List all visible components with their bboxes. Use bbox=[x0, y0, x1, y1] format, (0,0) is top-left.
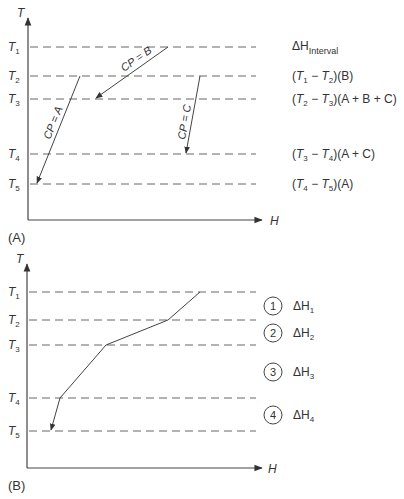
x-axis-label: H bbox=[268, 462, 277, 476]
svg-text:ΔH1: ΔH1 bbox=[293, 299, 315, 315]
interval-1-2: (T1 − T2)(B) bbox=[292, 69, 353, 85]
stream-a: CP = A bbox=[37, 76, 80, 183]
panel-a: T H (A) T1 T2 T3 T4 T5 CP = B CP = A bbox=[8, 6, 397, 245]
interval-1: 1 ΔH1 bbox=[264, 297, 315, 315]
svg-text:T5: T5 bbox=[8, 424, 20, 440]
svg-text:ΔH2: ΔH2 bbox=[293, 326, 315, 342]
svg-text:T2: T2 bbox=[8, 69, 20, 85]
temperature-levels bbox=[29, 292, 256, 431]
svg-text:1: 1 bbox=[270, 300, 276, 312]
interval-3-4: (T3 − T4)(A + C) bbox=[292, 147, 375, 163]
interval-header: ΔHInterval bbox=[292, 39, 338, 56]
interval-4: 4 ΔH4 bbox=[264, 406, 315, 424]
interval-4-5: (T4 − T5)(A) bbox=[292, 177, 353, 193]
composite-curve bbox=[51, 292, 200, 430]
interval-2: 2 ΔH2 bbox=[264, 324, 315, 342]
y-axis-label: T bbox=[16, 252, 25, 266]
y-axis-label: T bbox=[17, 6, 26, 20]
stream-c: CP = C bbox=[175, 76, 200, 153]
temperature-interval-diagram: T H (A) T1 T2 T3 T4 T5 CP = B CP = A bbox=[0, 0, 404, 499]
level-labels: T1 T2 T3 T4 T5 bbox=[8, 40, 20, 193]
svg-text:CP = C: CP = C bbox=[175, 103, 193, 140]
svg-text:3: 3 bbox=[270, 366, 276, 378]
svg-text:4: 4 bbox=[270, 409, 276, 421]
panel-caption: (A) bbox=[8, 230, 25, 245]
svg-text:T4: T4 bbox=[8, 147, 20, 163]
interval-3: 3 ΔH3 bbox=[264, 363, 315, 381]
svg-text:ΔH3: ΔH3 bbox=[293, 365, 315, 381]
svg-text:T1: T1 bbox=[8, 285, 20, 301]
svg-text:ΔH4: ΔH4 bbox=[293, 408, 315, 424]
interval-markers: 1 ΔH1 2 ΔH2 3 ΔH3 4 ΔH4 bbox=[264, 297, 315, 424]
svg-text:T1: T1 bbox=[8, 40, 20, 56]
level-labels: T1 T2 T3 T4 T5 bbox=[8, 285, 20, 440]
panel-b: T H (B) T1 T2 T3 T4 T5 1 ΔH1 2 bbox=[8, 252, 315, 493]
svg-text:T3: T3 bbox=[8, 338, 20, 354]
x-axis-label: H bbox=[270, 214, 279, 228]
svg-text:2: 2 bbox=[270, 327, 276, 339]
stream-b: CP = B bbox=[96, 44, 168, 98]
svg-text:T3: T3 bbox=[8, 92, 20, 108]
interval-2-3: (T2 − T3)(A + B + C) bbox=[292, 92, 397, 108]
interval-labels: ΔHInterval (T1 − T2)(B) (T2 − T3)(A + B … bbox=[292, 39, 397, 193]
svg-text:T4: T4 bbox=[8, 391, 20, 407]
svg-text:T2: T2 bbox=[8, 313, 20, 329]
panel-caption: (B) bbox=[8, 478, 25, 493]
svg-text:T5: T5 bbox=[8, 177, 20, 193]
